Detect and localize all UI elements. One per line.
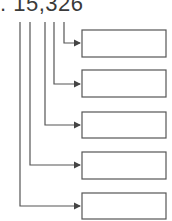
connector-line-5 <box>20 22 80 206</box>
answer-box-1[interactable] <box>82 30 166 57</box>
connector-line-3 <box>45 22 80 125</box>
answer-box-4[interactable] <box>82 152 166 179</box>
connector-line-1 <box>64 22 80 43</box>
answer-box-5[interactable] <box>82 193 166 219</box>
answer-box-3[interactable] <box>82 112 166 138</box>
connector-line-2 <box>54 22 80 84</box>
place-value-diagram <box>0 0 172 221</box>
answer-box-2[interactable] <box>82 70 166 97</box>
